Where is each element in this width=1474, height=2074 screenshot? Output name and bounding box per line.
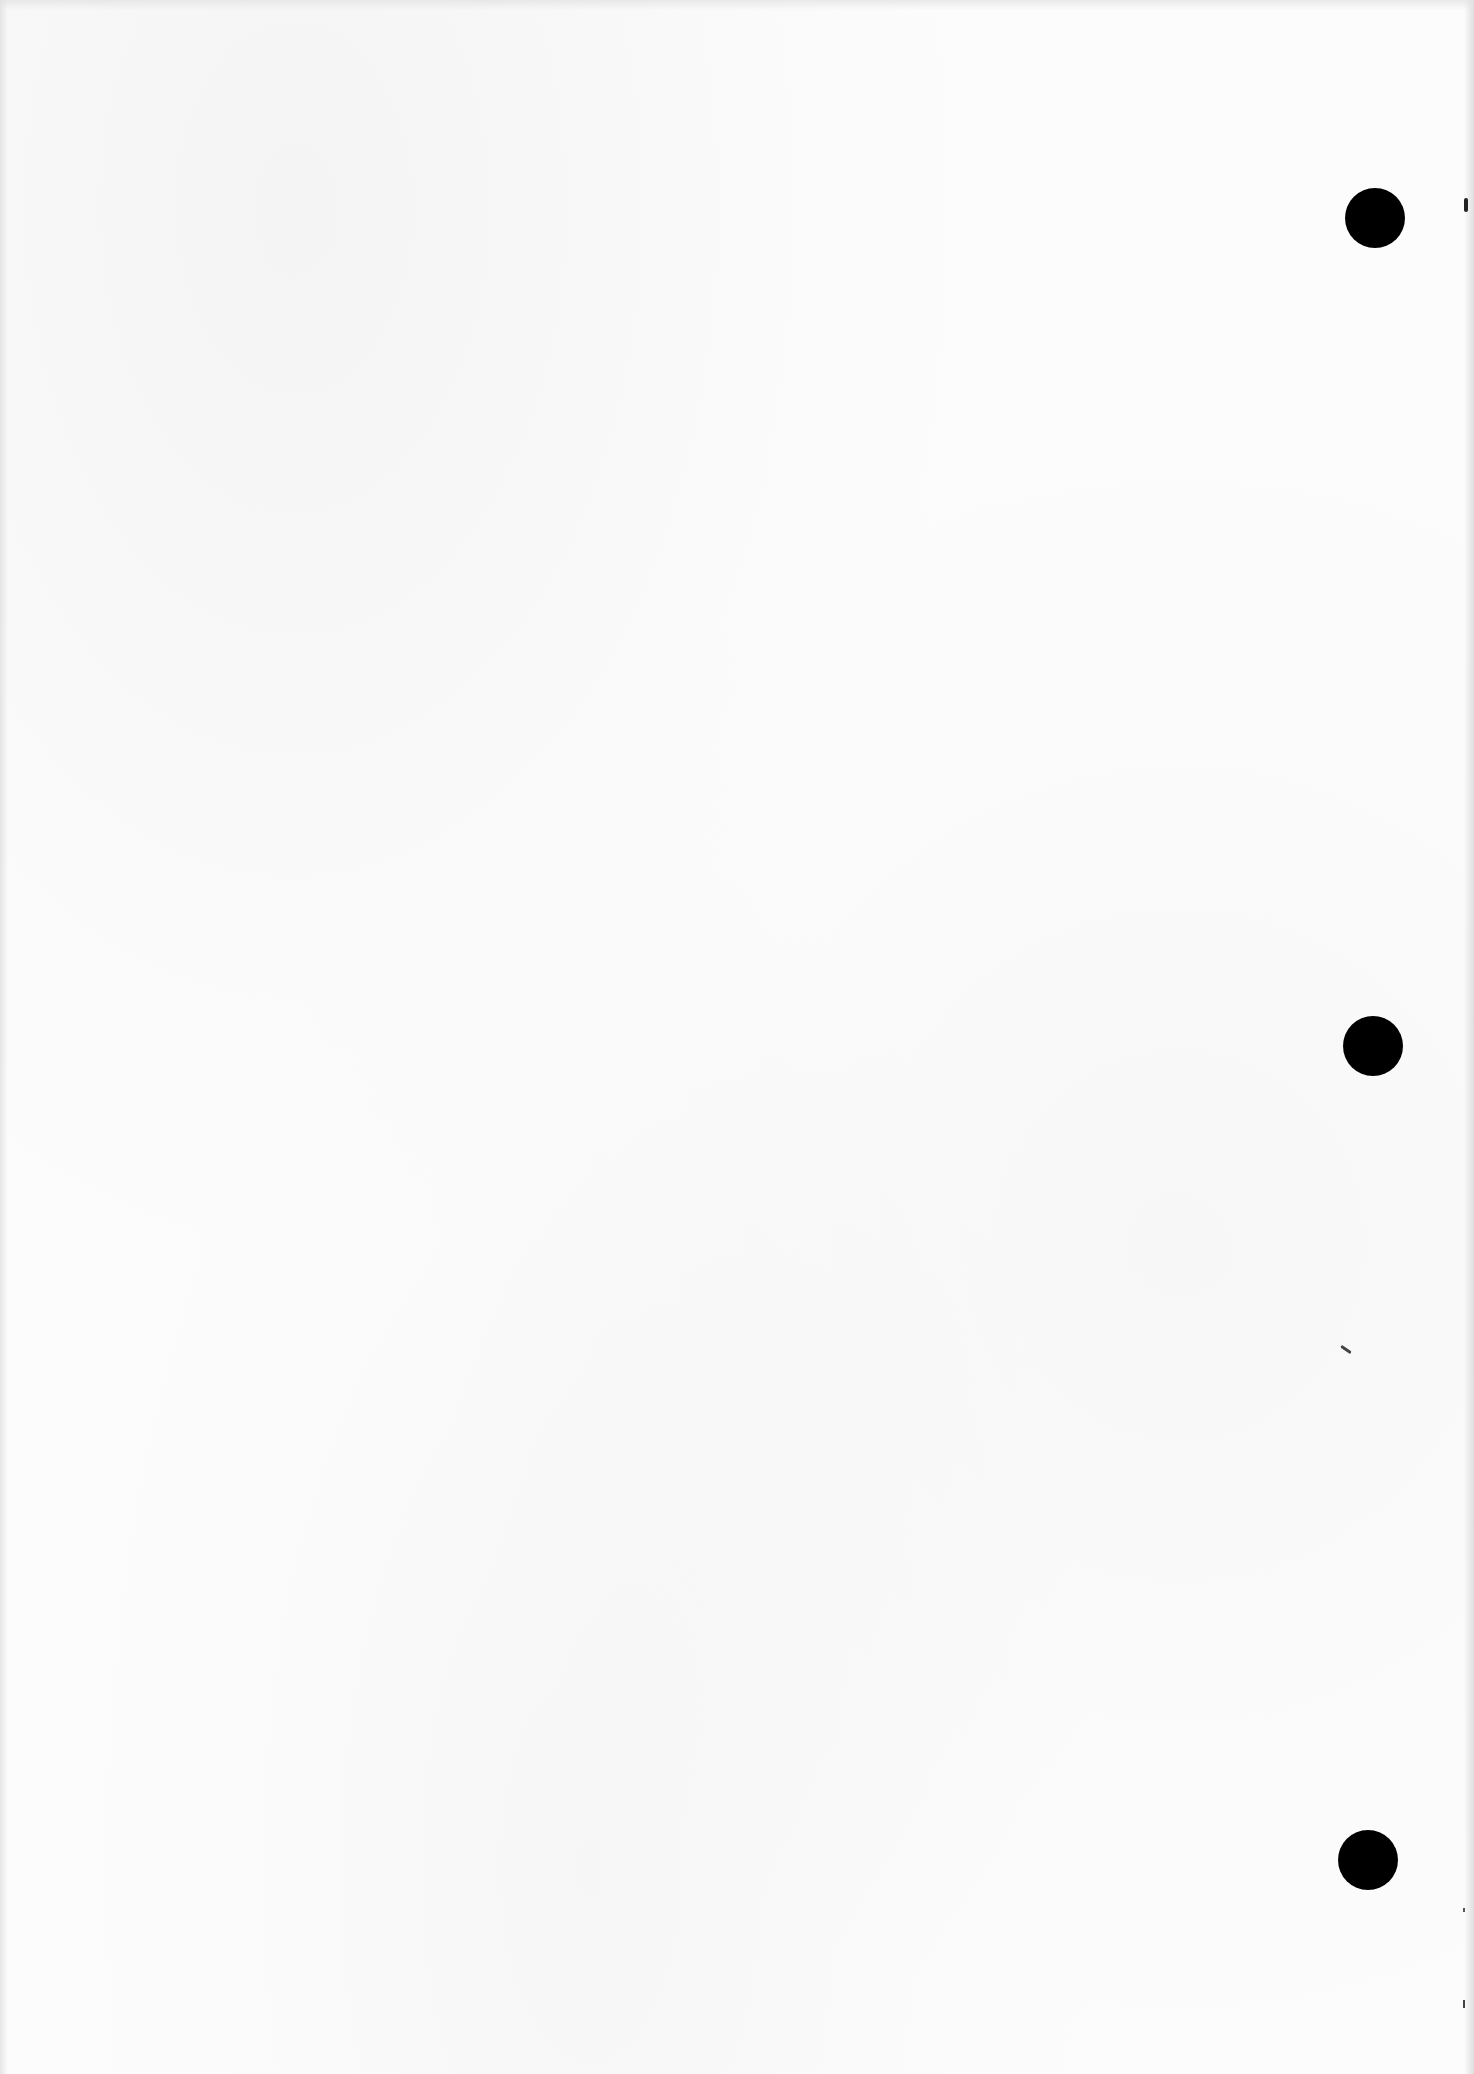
left-edge-shadow [0, 0, 8, 2074]
top-edge-shadow [0, 0, 1474, 10]
edge-speck-1 [1463, 1908, 1465, 1912]
punch-hole-middle [1343, 1016, 1403, 1076]
edge-mark-top [1464, 198, 1468, 212]
punch-hole-top [1345, 188, 1405, 248]
punch-hole-bottom [1338, 1830, 1398, 1890]
edge-speck-2 [1463, 2000, 1465, 2008]
right-edge-shadow [1464, 0, 1474, 2074]
stray-mark-middle [1340, 1345, 1352, 1354]
scanned-page [0, 0, 1474, 2074]
